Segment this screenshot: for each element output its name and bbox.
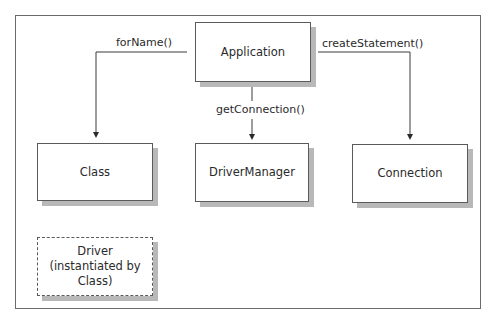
edge-label-forname: forName(): [116, 36, 172, 49]
node-driver-label-line3: Class): [78, 274, 113, 289]
node-connection: Connection: [352, 144, 468, 203]
edge-forname: [96, 52, 187, 133]
node-driver-label-line2: (instantiated by: [49, 259, 140, 274]
node-driver-manager-label: DriverManager: [209, 165, 295, 180]
node-connection-label: Connection: [377, 166, 442, 181]
edge-createstatement: [318, 52, 410, 135]
node-driver: Driver (instantiated by Class): [37, 237, 153, 296]
node-driver-label-line1: Driver: [77, 244, 112, 259]
node-class-label: Class: [80, 165, 110, 180]
edge-label-createstatement: createStatement(): [322, 37, 423, 50]
node-class: Class: [37, 143, 153, 201]
edge-label-getconnection: getConnection(): [216, 103, 305, 116]
node-application: Application: [195, 22, 311, 82]
node-application-label: Application: [221, 45, 285, 60]
node-driver-manager: DriverManager: [195, 143, 309, 202]
